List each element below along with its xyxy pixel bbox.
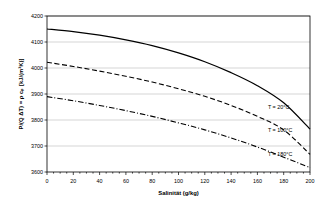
x-tick-label: 0	[46, 178, 49, 184]
x-tick-label: 100	[174, 178, 183, 184]
x-tick-label: 60	[123, 178, 129, 184]
x-tick-label: 200	[306, 178, 315, 184]
y-tick-label: 4000	[31, 65, 43, 71]
y-tick-label: 3600	[31, 169, 43, 175]
x-tick-label: 80	[149, 178, 155, 184]
y-tick-label: 3800	[31, 117, 43, 123]
y-tick-label: 3700	[31, 143, 43, 149]
x-tick-label: 180	[279, 178, 288, 184]
x-axis-title: Salinität (g/kg)	[158, 190, 199, 196]
x-tick-label: 160	[253, 178, 262, 184]
chart-background	[0, 0, 327, 204]
x-tick-label: 40	[97, 178, 103, 184]
salinity-density-heat-capacity-chart: 020406080100120140160180200 360037003800…	[0, 0, 327, 204]
y-tick-label: 3900	[31, 91, 43, 97]
series-label-2: T = 100°C	[268, 127, 292, 133]
series-label-1: T = 20°C	[268, 104, 289, 110]
y-axis-title: P/(Q ΔT) = ρ cₚ [kJ/(m³K)]	[18, 58, 24, 129]
series-label-3: T = 180°C	[268, 151, 292, 157]
y-tick-label: 4200	[31, 13, 43, 19]
x-tick-label: 120	[200, 178, 209, 184]
x-tick-label: 140	[227, 178, 236, 184]
chart-figure: 020406080100120140160180200 360037003800…	[0, 0, 327, 204]
y-tick-label: 4100	[31, 39, 43, 45]
x-tick-label: 20	[70, 178, 76, 184]
